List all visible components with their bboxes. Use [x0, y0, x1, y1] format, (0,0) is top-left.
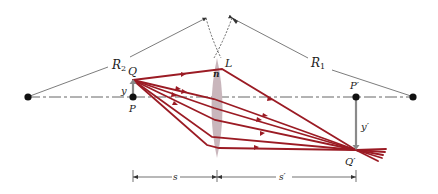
- label-y: y: [120, 85, 127, 96]
- center-of-curvature-right-dot: [409, 93, 416, 100]
- label-P-prime: P′: [349, 80, 360, 91]
- image-point-P-prime-dot: [352, 93, 359, 100]
- label-Q: Q: [128, 65, 137, 78]
- label-s-prime: s′: [279, 172, 286, 182]
- label-Q-prime: Q′: [345, 156, 356, 167]
- label-R1: R1: [310, 56, 325, 71]
- label-s: s: [173, 172, 178, 182]
- label-L: L: [224, 57, 232, 70]
- radius-R1: [231, 17, 411, 96]
- rays: [133, 69, 386, 161]
- lens-surface-arc-left: [206, 18, 221, 58]
- distance-dimension: [133, 170, 356, 182]
- label-P: P: [128, 103, 136, 114]
- label-n: n: [213, 69, 220, 79]
- radius-R2: [30, 18, 206, 96]
- label-R2: R2: [111, 58, 126, 73]
- object-point-P-dot: [129, 93, 136, 100]
- lens-diagram: R2 R1 Q y P L n P′ y′ Q′ s s′: [0, 0, 438, 194]
- center-of-curvature-left-dot: [24, 93, 31, 100]
- lens-surface-arc-right: [214, 18, 232, 58]
- label-y-prime: y′: [360, 121, 370, 132]
